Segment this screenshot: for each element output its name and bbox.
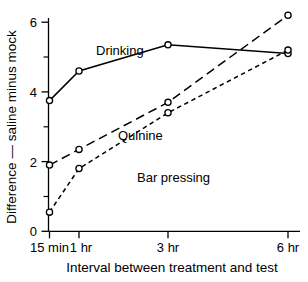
x-tick-label-6hr: 6 hr <box>277 240 300 255</box>
y-tick-label-2: 2 <box>30 155 37 170</box>
y-tick-label-6: 6 <box>30 15 37 30</box>
x-tick-label-15min: 15 min <box>30 240 69 255</box>
x-axis-group: 15 min 1 hr 3 hr 6 hr Interval between t… <box>30 231 300 275</box>
series-annotation-layer: Drinking Quinine Bar pressing <box>96 43 210 185</box>
y-tick-label-0: 0 <box>30 224 37 239</box>
data-point <box>285 12 291 18</box>
series-line-drinking <box>50 45 289 101</box>
data-point <box>165 110 171 116</box>
data-point <box>46 98 52 104</box>
series-label-bar-pressing: Bar pressing <box>137 170 210 185</box>
y-axis-group: 6 4 2 0 Difference — saline minus mock <box>4 15 49 239</box>
data-point <box>165 99 171 105</box>
series-label-quinine: Quinine <box>118 128 163 143</box>
y-axis-title: Difference — saline minus mock <box>4 30 19 224</box>
data-point <box>165 42 171 48</box>
x-tick-label-3hr: 3 hr <box>157 240 180 255</box>
x-tick-label-1hr: 1 hr <box>70 240 93 255</box>
series-label-drinking: Drinking <box>96 43 144 58</box>
data-point <box>285 47 291 53</box>
series-line-bar-pressing <box>50 50 289 212</box>
chart-figure: 6 4 2 0 Difference — saline minus mock 1… <box>0 0 308 282</box>
data-point <box>76 68 82 74</box>
data-point <box>46 209 52 215</box>
series-line-quinine <box>50 15 289 165</box>
data-point <box>76 146 82 152</box>
y-tick-label-4: 4 <box>30 85 37 100</box>
data-point <box>76 165 82 171</box>
x-axis-title: Interval between treatment and test <box>66 260 278 275</box>
data-point <box>46 162 52 168</box>
line-chart-canvas: 6 4 2 0 Difference — saline minus mock 1… <box>0 0 308 282</box>
